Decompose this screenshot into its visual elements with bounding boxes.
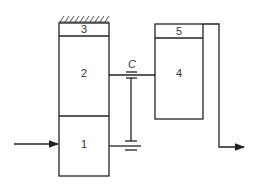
ground-hatch-icon [59,16,109,22]
block-5-label: 5 [176,25,182,37]
coupling-label: C [128,58,136,70]
block-1-label: 1 [81,138,87,150]
block-4-label: 4 [176,67,182,79]
output-flow-line [203,24,244,147]
left-column [59,23,109,176]
block-2-label: 2 [81,67,87,79]
mechanical-diagram: 3 2 1 5 4 C [0,0,256,188]
block-3-label: 3 [81,23,87,35]
